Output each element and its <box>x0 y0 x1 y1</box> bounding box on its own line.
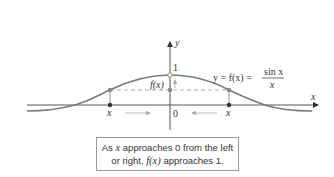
hollow-limit-point <box>168 73 172 77</box>
equation-numerator: sin x <box>264 66 283 77</box>
caption-line-1: As x approaches 0 from the left <box>97 141 238 154</box>
left-x-label: x <box>106 107 112 118</box>
right-x-label: x <box>225 107 231 118</box>
caption-box: As x approaches 0 from the left or right… <box>96 137 239 171</box>
y-tick-1: 1 <box>173 62 178 73</box>
origin-label: 0 <box>173 108 178 119</box>
equation-denominator: x <box>269 79 275 90</box>
right-curve-point <box>227 88 231 92</box>
equation-lhs: y = f(x) = <box>213 72 252 84</box>
left-curve-point <box>108 88 112 92</box>
x-axis-label: x <box>310 91 316 102</box>
y-axis-label: y <box>174 37 180 48</box>
fx-label: f(x) <box>150 79 165 91</box>
caption-line-2: or right, f(x) approaches 1. <box>97 154 238 167</box>
fx-point <box>168 88 172 92</box>
